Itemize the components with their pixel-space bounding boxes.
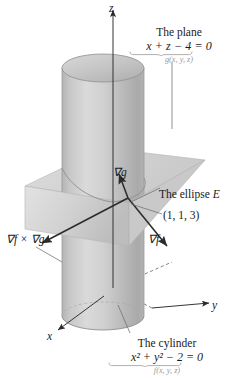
cylinder-label-block: The cylinder x² + y² − 2 = 0 f(x, y, z): [108, 337, 226, 376]
cylinder-equation: x² + y² − 2 = 0: [108, 351, 226, 367]
plane-label-block: The plane x + z − 4 = 0 g(x, y, z): [129, 26, 229, 65]
y-axis: [152, 303, 209, 308]
cylinder-surface: [62, 54, 144, 330]
plane-equation: x + z − 4 = 0: [129, 40, 229, 56]
grad-g-label: ∇g: [113, 166, 127, 179]
point-label: (1, 1, 3): [163, 209, 199, 222]
lagrange-multiplier-figure: The plane x + z − 4 = 0 g(x, y, z) The c…: [0, 0, 234, 383]
grad-f-label: ∇f: [148, 233, 159, 246]
ellipse-label: The ellipse E: [159, 188, 220, 201]
cylinder-caption: The cylinder: [108, 337, 226, 350]
y-axis-label: y: [212, 299, 217, 312]
ellipse-label-text: The ellipse: [159, 188, 213, 200]
grad-f-cross-grad-g-label: ∇f × ∇g: [6, 233, 44, 246]
plane-function-label: g(x, y, z): [129, 55, 229, 64]
cylinder-function-label: f(x, y, z): [108, 366, 226, 375]
plane-equation-text: x + z − 4 = 0: [146, 39, 212, 53]
plane-caption: The plane: [129, 26, 229, 39]
x-axis-label: x: [47, 330, 52, 343]
ellipse-label-symbol: E: [213, 188, 220, 200]
z-axis-label: z: [109, 2, 113, 15]
cylinder-equation-text: x² + y² − 2 = 0: [131, 350, 203, 364]
